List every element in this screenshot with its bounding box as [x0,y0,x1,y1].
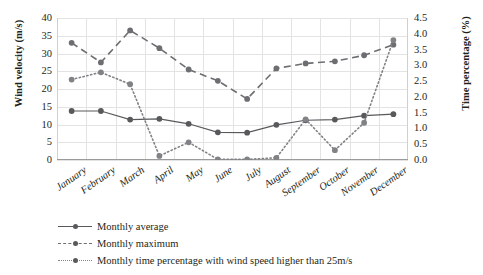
data-point-marker [186,121,192,127]
data-point-marker [390,111,396,117]
wind-velocity-chart-figure: Wind velocity (m/s) Time percentage (%) … [0,0,483,275]
data-point-marker [127,81,133,87]
data-point-marker [361,52,367,58]
data-point-marker [244,96,250,102]
right-tick-label: 3.5 [414,45,427,55]
data-point-marker [186,139,192,145]
legend-key-dashed-icon [58,238,92,250]
left-tick-label: 25 [0,66,52,76]
gridline-horizontal [57,160,408,161]
left-tick-label: 0 [0,155,52,165]
data-point-marker [98,69,104,75]
series-line [72,111,394,133]
data-point-marker [332,117,338,123]
right-tick-label: 2.0 [414,92,427,102]
left-tick-label: 5 [0,137,52,147]
right-axis-title: Time percentage (%) [460,4,471,124]
data-point-marker [273,66,279,72]
data-point-marker [215,156,221,160]
data-point-marker [98,108,104,114]
right-tick-label: 1.5 [414,108,427,118]
legend-label-monthly-maximum: Monthly maximum [97,238,178,249]
data-point-marker [127,28,133,34]
data-point-marker [332,58,338,64]
legend-item-monthly-maximum: Monthly maximum [58,235,352,252]
data-point-marker [244,156,250,160]
data-point-marker [332,147,338,153]
data-point-marker [215,129,221,135]
data-point-marker [69,77,75,83]
left-tick-label: 20 [0,84,52,94]
data-point-marker [69,108,75,114]
right-tick-label: 2.5 [414,76,427,86]
data-point-marker [156,116,162,122]
right-tick-label: 4.5 [414,13,427,23]
series-1 [69,108,397,135]
data-point-marker [156,45,162,51]
data-point-marker [303,61,309,67]
data-point-marker [244,130,250,136]
right-tick-label: 3.0 [414,60,427,70]
series-3 [69,37,397,160]
series-line [72,40,394,159]
right-tick-label: 1.0 [414,123,427,133]
left-tick-label: 40 [0,13,52,23]
data-point-marker [186,67,192,73]
left-tick-label: 15 [0,102,52,112]
chart-legend: Monthly average Monthly maximum Monthly … [58,218,352,269]
data-point-marker [361,120,367,126]
series-line [72,30,394,99]
data-point-marker [127,117,133,123]
right-tick-label: 0.0 [414,155,427,165]
legend-key-solid-icon [58,221,92,233]
left-tick-label: 10 [0,120,52,130]
data-point-marker [390,37,396,43]
legend-label-monthly-average: Monthly average [97,221,168,232]
data-point-marker [273,122,279,128]
plot-area [57,18,408,160]
left-tick-label: 30 [0,49,52,59]
right-tick-label: 4.0 [414,29,427,39]
left-tick-label: 35 [0,31,52,41]
legend-label-time-percentage: Monthly time percentage with wind speed … [97,255,352,266]
data-point-marker [156,153,162,159]
series-2 [69,28,397,102]
legend-item-time-percentage: Monthly time percentage with wind speed … [58,252,352,269]
legend-key-dotted-icon [58,255,92,267]
data-point-marker [303,116,309,122]
data-point-marker [69,40,75,46]
legend-item-monthly-average: Monthly average [58,218,352,235]
data-point-marker [98,59,104,65]
data-point-marker [215,78,221,84]
series-layer [57,18,408,160]
right-tick-label: 0.5 [414,139,427,149]
